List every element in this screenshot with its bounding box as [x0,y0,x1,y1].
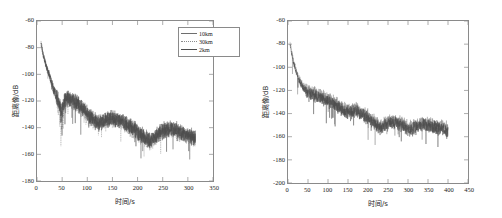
x-tick-label: 50 [298,187,316,194]
y-tick-label: -180 [12,178,34,185]
x-tick-label: 200 [129,185,147,192]
legend-item: 2km [181,46,236,54]
x-tick-label: 250 [154,185,172,192]
x-tick-label: 100 [318,187,336,194]
y-tick-label: -200 [263,180,285,187]
legend-left: 10km 30km 2km [178,27,240,57]
y-axis-title: 距离像/dB [260,72,270,132]
plot-area-right [288,21,468,183]
y-tick-label: -60 [12,17,34,24]
y-tick-label: -80 [263,40,285,47]
chart-panel-left: -60 -80 -100 -120 -140 -160 -180 0 50 10… [0,0,251,218]
x-tick-label: 350 [420,187,438,194]
y-tick-label: -180 [263,157,285,164]
plot-frame-right [287,20,469,184]
series-line [41,43,195,152]
x-axis-title: 时间/s [85,196,165,206]
legend-item: 10km [181,30,236,38]
x-tick-label: 300 [399,187,417,194]
figure-root: -60 -80 -100 -120 -140 -160 -180 0 50 10… [0,0,502,218]
x-tick-label: 100 [78,185,96,192]
legend-label: 10km [199,30,213,38]
y-axis-title: 距离像/dB [10,71,20,131]
y-tick-label: -60 [263,17,285,24]
x-tick-label: 150 [103,185,121,192]
x-tick-label: 400 [440,187,458,194]
x-tick-label: 0 [278,187,296,194]
legend-label: 2km [199,46,210,54]
legend-item: 30km [181,38,236,46]
x-tick-label: 150 [339,187,357,194]
x-tick-label: 450 [460,187,478,194]
x-tick-label: 50 [52,185,70,192]
x-tick-label: 300 [180,185,198,192]
y-tick-label: -160 [263,133,285,140]
x-tick-label: 350 [205,185,223,192]
x-tick-label: 200 [359,187,377,194]
x-tick-label: 0 [27,185,45,192]
chart-panel-right: -60 -80 -100 -120 -140 -160 -180 -200 0 … [251,0,502,218]
legend-label: 30km [199,38,213,46]
y-tick-label: -160 [12,151,34,158]
x-tick-label: 250 [379,187,397,194]
x-axis-title: 时间/s [338,198,418,208]
y-tick-label: -80 [12,44,34,51]
series-line [290,44,448,147]
y-tick-label: -100 [263,64,285,71]
